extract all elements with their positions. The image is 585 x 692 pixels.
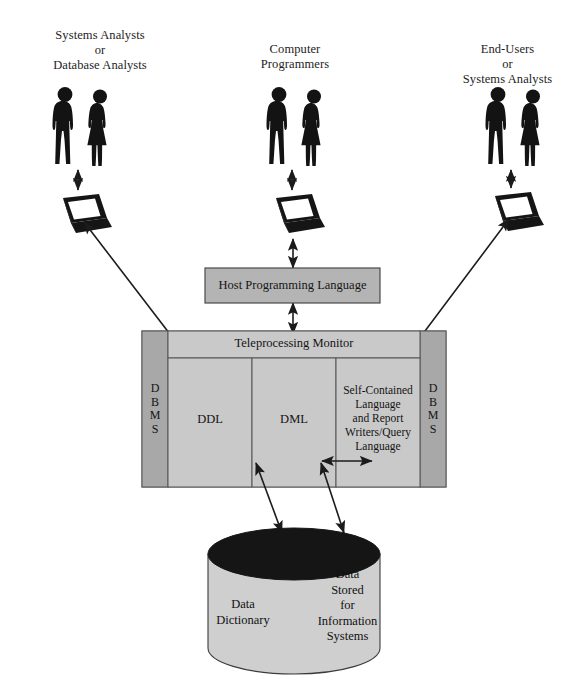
teleprocessing-monitor-label: Teleprocessing Monitor: [168, 336, 420, 351]
database-data-dictionary-label: Data Dictionary: [195, 597, 291, 628]
panel-self-contained-label: Self-Contained Language and Report Write…: [334, 383, 422, 453]
host-programming-language-label: Host Programming Language: [205, 278, 380, 293]
panel-ddl-label: DDL: [168, 412, 252, 427]
people-group-right: [485, 87, 540, 171]
laptop-center: [276, 194, 325, 233]
person-male-icon: [485, 87, 506, 171]
people-group-left: [52, 87, 107, 171]
laptop-icon: [276, 194, 325, 233]
person-female-icon: [301, 90, 321, 167]
database-stored-data-label: Data Stored for Information Systems: [295, 567, 400, 645]
dbms-architecture-diagram: Systems Analysts or Database Analysts Co…: [0, 0, 585, 692]
laptop-icon: [495, 192, 544, 231]
person-male-icon: [266, 87, 287, 171]
dbms-right-bar-label: D B M S: [420, 382, 446, 436]
person-male-icon: [52, 87, 73, 171]
people-group-center: [266, 87, 321, 171]
caption-right-users: End-Users or Systems Analysts: [430, 42, 585, 87]
caption-left-users: Systems Analysts or Database Analysts: [0, 28, 200, 73]
laptop-right: [495, 192, 544, 231]
panel-dml-label: DML: [252, 412, 336, 427]
person-female-icon: [520, 90, 540, 167]
person-female-icon: [87, 90, 107, 167]
dbms-left-bar-label: D B M S: [142, 382, 168, 436]
caption-center-users: Computer Programmers: [215, 42, 375, 72]
